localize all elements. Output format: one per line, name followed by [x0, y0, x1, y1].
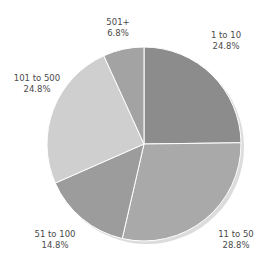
data-label-501-plus: 501+ 6.8%	[106, 17, 129, 38]
label-percent: 28.8%	[218, 240, 254, 251]
label-category: 51 to 100	[35, 229, 76, 240]
label-category: 1 to 10	[211, 30, 241, 41]
data-label-101-to-500: 101 to 500 24.8%	[14, 73, 60, 94]
label-category: 101 to 500	[14, 73, 60, 84]
label-percent: 14.8%	[35, 240, 76, 251]
data-label-1-to-10: 1 to 10 24.8%	[211, 30, 241, 51]
data-label-11-to-50: 11 to 50 28.8%	[218, 229, 254, 250]
pie-slices	[47, 47, 241, 241]
data-label-51-to-100: 51 to 100 14.8%	[35, 229, 76, 250]
label-category: 11 to 50	[218, 229, 254, 240]
label-percent: 24.8%	[211, 41, 241, 52]
label-category: 501+	[106, 17, 129, 28]
pie-slice-1-to-10	[144, 47, 241, 144]
label-percent: 6.8%	[106, 28, 129, 39]
label-percent: 24.8%	[14, 84, 60, 95]
